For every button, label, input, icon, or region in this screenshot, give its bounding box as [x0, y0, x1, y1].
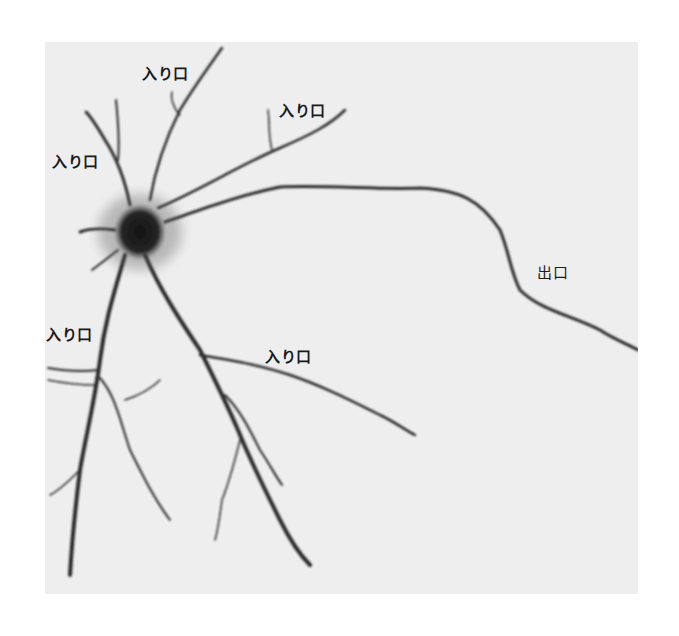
neuron-micrograph: [45, 42, 638, 594]
label-input-left: 入り口: [52, 150, 99, 171]
label-input-upper-right: 入り口: [279, 99, 326, 120]
label-input-lower-left: 入り口: [46, 323, 93, 344]
label-output: 出口: [537, 261, 568, 282]
neuron-drawing: [45, 42, 638, 594]
label-input-top: 入り口: [142, 62, 189, 83]
label-input-lower-right: 入り口: [265, 345, 312, 366]
